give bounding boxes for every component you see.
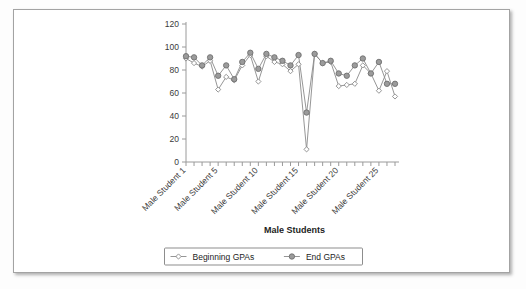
legend-label[interactable]: Beginning GPAs [193,252,255,262]
data-point [248,50,253,55]
data-point [215,73,220,78]
series-markers [183,50,397,152]
chart-legend[interactable]: Beginning GPAsEnd GPAs [165,248,363,265]
chart-panel: 020406080100120 Male Student 1Male Stude… [13,9,510,273]
data-point [328,58,333,63]
data-point [199,63,204,68]
data-point [207,55,212,60]
legend-marker [289,254,294,259]
data-point [183,54,188,59]
data-point [240,59,245,64]
y-tick-label: 120 [165,19,179,29]
chart-canvas: 020406080100120 Male Student 1Male Stude… [14,10,511,274]
x-axis-ticks [186,162,395,166]
x-axis-title: Male Students [264,225,325,235]
x-axis-tick-labels: Male Student 1Male Student 5Male Student… [140,165,381,216]
y-tick-label: 20 [170,134,180,144]
data-point [368,71,373,76]
data-point [320,60,325,65]
data-point [280,58,285,63]
data-point [312,51,317,56]
data-point [288,63,293,68]
data-point [352,63,357,68]
data-point [224,74,229,79]
data-point [352,81,357,86]
data-point [191,55,196,60]
line-chart: 020406080100120 Male Student 1Male Stude… [14,10,511,274]
data-point [392,81,397,86]
screenshot-root: 020406080100120 Male Student 1Male Stude… [0,0,526,289]
data-point [376,59,381,64]
data-point [360,56,365,61]
data-point [336,71,341,76]
data-point [232,77,237,82]
data-point [272,55,277,60]
data-point [256,66,261,71]
data-point [344,82,349,87]
series-line-end-gpas [186,53,395,113]
y-tick-label: 80 [170,65,180,75]
data-point [392,94,397,99]
data-point [216,87,221,92]
data-point [304,147,309,152]
y-tick-label: 0 [174,157,179,167]
y-axis-ticks: 020406080100120 [165,19,186,167]
legend-label[interactable]: End GPAs [306,252,345,262]
data-point [223,63,228,68]
y-tick-label: 40 [170,111,180,121]
data-point [376,88,381,93]
data-point [264,51,269,56]
data-point [191,61,196,66]
y-tick-label: 60 [170,88,180,98]
data-point [344,73,349,78]
data-point [336,84,341,89]
data-point [296,52,301,57]
data-point [384,81,389,86]
y-tick-label: 100 [165,42,179,52]
data-point [256,79,261,84]
data-point [304,110,309,115]
data-point [384,69,389,74]
